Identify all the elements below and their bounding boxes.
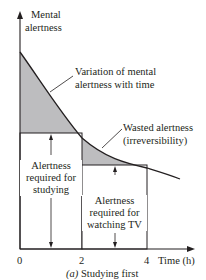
x-tick-0: 0 (17, 255, 22, 267)
wasted-annotation-line1: Wasted alertness (123, 122, 193, 134)
tv-box-line2: required for (82, 207, 147, 219)
studying-box-line2: required for (20, 172, 82, 184)
caption-letter: (a) (66, 268, 78, 279)
caption: (a) Studying first (66, 268, 138, 280)
x-axis-label: Time (h) (158, 255, 195, 267)
alertness-diagram: Mental alertness Variation of mental ale… (0, 0, 206, 280)
studying-box-line3: studying (20, 184, 82, 196)
x-axis-arrow-icon (187, 246, 195, 252)
wasted-annotation-line2: (irreversibility) (123, 135, 187, 147)
tv-box-line1: Alertness (82, 195, 147, 207)
x-tick-4: 4 (144, 255, 149, 267)
x-tick-2: 2 (79, 255, 84, 267)
studying-box-label: Alertness required for studying (20, 160, 82, 196)
tv-box-line3: watching TV (82, 219, 147, 231)
studying-box-line1: Alertness (20, 160, 82, 172)
curve-leader-line (50, 76, 73, 92)
caption-text: Studying first (81, 268, 138, 279)
tv-box-label: Alertness required for watching TV (82, 195, 147, 231)
y-axis-label-line1: Mental (31, 9, 61, 21)
wasted-leader-line (102, 129, 122, 148)
curve-annotation-line2: alertness with time (75, 79, 154, 91)
y-axis-arrow-icon (17, 11, 23, 19)
y-axis-label-line2: alertness (25, 22, 62, 34)
curve-annotation-line1: Variation of mental (75, 66, 156, 78)
